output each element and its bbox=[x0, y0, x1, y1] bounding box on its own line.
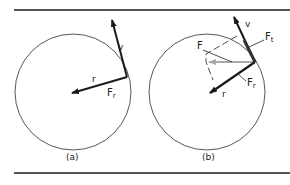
label-r-a: r bbox=[92, 74, 96, 84]
panel-a: v r Fr (a) bbox=[15, 20, 131, 162]
label-Ft: Ft bbox=[265, 31, 274, 44]
label-Fr-b: Fr bbox=[247, 77, 256, 90]
caption-b: (b) bbox=[202, 152, 215, 162]
label-v-a: v bbox=[118, 42, 124, 52]
circular-motion-diagram: v r Fr (a) v F Ft Fr r (b) bbox=[0, 0, 290, 185]
panel-b: v F Ft Fr r (b) bbox=[149, 17, 274, 162]
caption-a: (a) bbox=[66, 152, 79, 162]
radial-force-vector-a bbox=[72, 77, 127, 93]
leader-Ft bbox=[247, 40, 264, 48]
label-v-b: v bbox=[245, 19, 251, 29]
leader-F bbox=[203, 50, 232, 62]
label-r-b: r bbox=[222, 89, 226, 99]
label-F: F bbox=[197, 40, 203, 51]
leader-Fr bbox=[238, 74, 246, 81]
tangential-force-vector bbox=[244, 40, 255, 62]
label-Fr-a: Fr bbox=[107, 87, 116, 100]
